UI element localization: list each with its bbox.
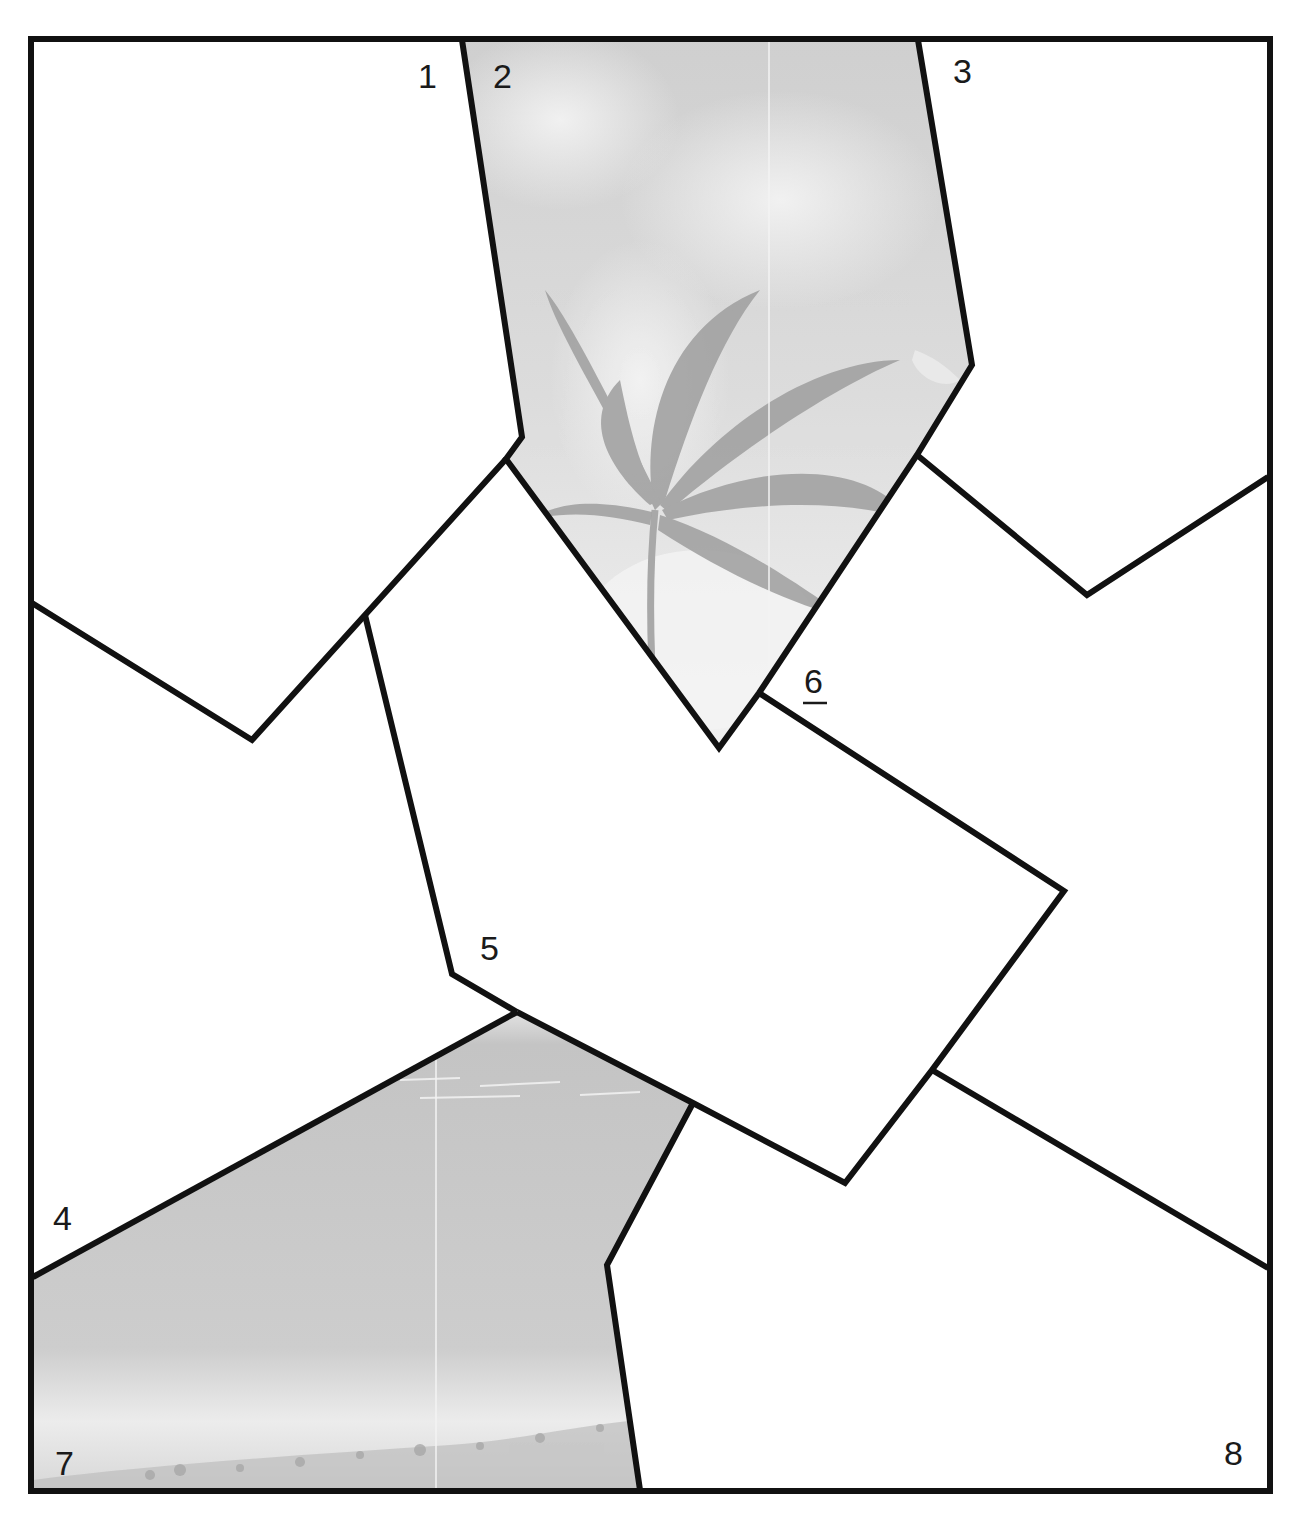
boundary-1-4 <box>32 459 506 740</box>
region-label-5: 5 <box>480 929 499 967</box>
boundary-3-6 <box>917 455 1268 595</box>
region-7-beach-photo <box>30 1005 710 1495</box>
puzzle-diagram: 1 2 3 4 5 6 7 8 <box>0 0 1290 1520</box>
boundary-6-8 <box>932 1070 1268 1268</box>
region-label-2: 2 <box>493 57 512 95</box>
region-label-6: 6 <box>804 662 823 700</box>
region-label-7: 7 <box>55 1444 74 1482</box>
region-label-8: 8 <box>1224 1434 1243 1472</box>
region-label-4: 4 <box>53 1199 72 1237</box>
region-label-3: 3 <box>953 52 972 90</box>
region-label-1: 1 <box>418 57 437 95</box>
region-2-palm-photo <box>440 30 1000 760</box>
